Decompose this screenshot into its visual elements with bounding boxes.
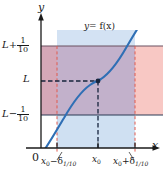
y-tick-label-L-plus-epsilon: L+110: [2, 37, 29, 54]
y-axis-label: y: [38, 2, 44, 13]
y-axis-arrow-icon: [38, 13, 44, 21]
limit-plot-canvas: [0, 0, 163, 175]
point-x0-L: [96, 79, 101, 84]
y-tick-label-L: L: [23, 74, 30, 84]
y-tick-label-L-minus-epsilon: L−110: [2, 106, 29, 123]
curve-equation-label: y= f(x): [84, 22, 115, 31]
x-tick-label-x0: x0: [92, 155, 101, 165]
x-axis-label: x: [152, 140, 158, 151]
origin-label: 0: [32, 152, 39, 163]
x-tick-label-x0-minus-delta: x0−δ1/10: [41, 157, 76, 167]
x-tick-label-x0-plus-delta: x0+δ1/10: [113, 157, 148, 167]
delta-band-lower-blue: [57, 115, 135, 148]
epsilon-delta-limit-figure: y x y= f(x) L+110 L L−110 0 x0−δ1/10 x0 …: [0, 0, 163, 175]
epsilon-band-right-pink: [135, 46, 163, 115]
